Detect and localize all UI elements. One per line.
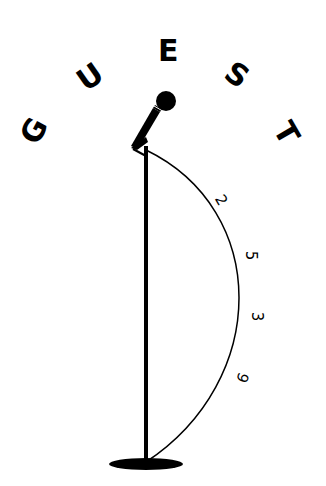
arc-digit-2: 5: [243, 251, 258, 261]
microphone-stand-icon: [0, 0, 326, 486]
title-letter-e: E: [158, 36, 179, 66]
arc-digit-3: 3: [249, 312, 264, 322]
guest-logo: G U E S T 2 5 3 9: [0, 0, 326, 486]
